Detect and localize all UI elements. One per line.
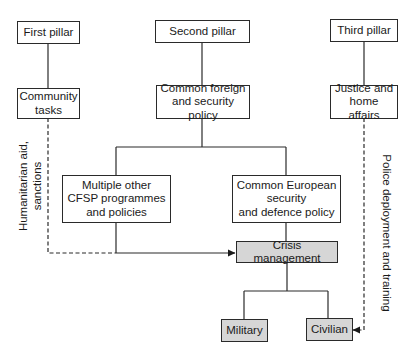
node-justice-home-affairs: Justice and home affairs	[330, 85, 398, 119]
node-third-pillar: Third pillar	[330, 19, 398, 42]
node-label: First pillar	[24, 26, 74, 40]
node-crisis-management: Crisis management	[236, 241, 338, 263]
node-first-pillar: First pillar	[17, 21, 80, 44]
node-label: Community tasks	[19, 90, 77, 117]
node-label: Justice and home affairs	[333, 82, 395, 123]
node-label: Civilian	[311, 323, 348, 337]
node-label: Multiple other CFSP programmes and polic…	[67, 179, 165, 220]
edge-label-police-deployment-training: Police deployment and training	[379, 148, 393, 318]
node-label: Common European security and defence pol…	[237, 179, 337, 220]
node-label: Crisis management	[239, 239, 335, 266]
node-label: Second pillar	[169, 25, 235, 39]
node-label: Military	[226, 324, 262, 338]
node-community-tasks: Community tasks	[17, 88, 80, 119]
edge-label-humanitarian-aid-sanctions: Humanitarian aid, sanctions	[17, 121, 45, 251]
node-label: Common foreign and security policy	[159, 82, 247, 123]
node-civilian: Civilian	[306, 318, 353, 341]
node-second-pillar: Second pillar	[155, 20, 250, 43]
node-label: Third pillar	[337, 24, 391, 38]
node-cfsp: Common foreign and security policy	[156, 85, 250, 119]
node-cesdp: Common European security and defence pol…	[232, 175, 341, 223]
node-multiple-other-cfsp: Multiple other CFSP programmes and polic…	[62, 175, 171, 223]
eu-pillars-crisis-management-diagram: First pillar Second pillar Third pillar …	[0, 0, 412, 356]
node-military: Military	[221, 319, 268, 342]
dashed-line-police	[358, 118, 364, 330]
